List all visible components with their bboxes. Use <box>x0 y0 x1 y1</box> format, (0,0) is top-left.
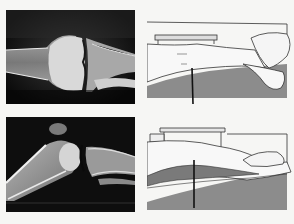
positioning-illustration-lateral <box>147 112 294 224</box>
knee-lateral-radiograph-image <box>6 117 135 212</box>
xray-knee-frontal <box>6 10 135 104</box>
patella <box>49 123 67 135</box>
leg-extended-positioning-drawing <box>147 0 294 112</box>
positioning-illustration-extended <box>147 0 294 112</box>
leg-lateral-positioning-drawing <box>147 112 294 224</box>
central-ray-line <box>192 68 193 104</box>
knee-frontal-radiograph-image <box>6 10 135 104</box>
cassette-plate <box>160 128 225 132</box>
cassette-plate <box>155 35 217 40</box>
xray-knee-lateral <box>6 117 135 212</box>
